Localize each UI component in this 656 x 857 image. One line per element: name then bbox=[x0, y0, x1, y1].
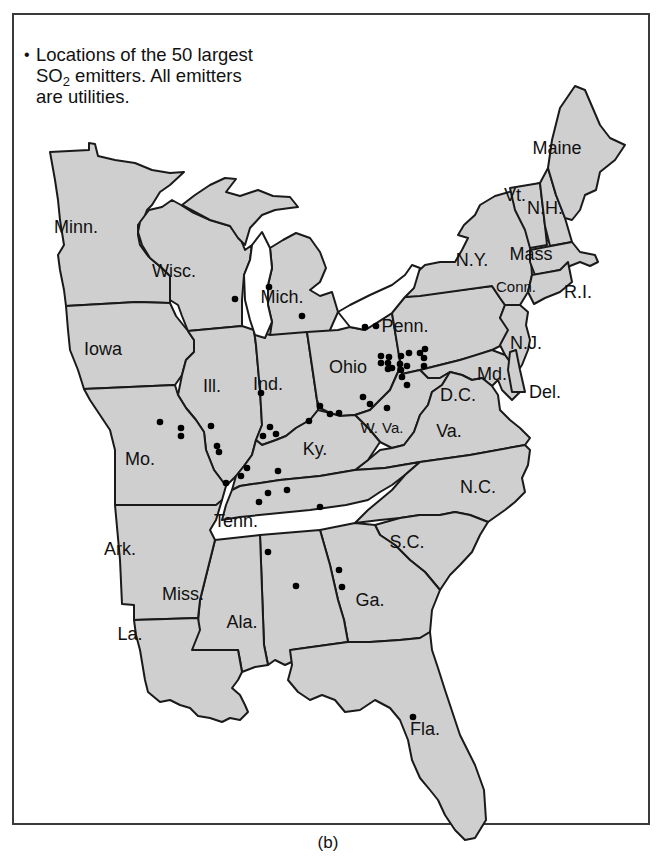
state-label: Vt. bbox=[504, 185, 526, 205]
emitter-dot bbox=[398, 353, 405, 360]
emitter-dot bbox=[293, 583, 300, 590]
emitter-dot bbox=[238, 473, 245, 480]
state-label: Mich. bbox=[260, 287, 303, 307]
map-legend: • Locations of the 50 largest SO2 emitte… bbox=[36, 44, 316, 107]
state-label: R.I. bbox=[564, 282, 592, 302]
emitter-dot bbox=[275, 468, 282, 475]
state-label: Mo. bbox=[125, 449, 155, 469]
state-label: Va. bbox=[436, 421, 462, 441]
emitter-dot bbox=[214, 443, 221, 450]
state-label: N.C. bbox=[460, 477, 496, 497]
state-label: W. Va. bbox=[360, 419, 403, 436]
state-label: Penn. bbox=[381, 316, 428, 336]
emitter-dot bbox=[244, 465, 251, 472]
state-label: Ark. bbox=[104, 539, 136, 559]
state-label: Ohio bbox=[329, 357, 367, 377]
emitter-dot bbox=[362, 324, 369, 331]
eastern-us-map: Minn.Wisc.Mich.IowaIll.Ind.OhioPenn.N.Y.… bbox=[0, 0, 656, 857]
emitter-dot bbox=[208, 423, 215, 430]
legend-line-3: are utilities. bbox=[36, 86, 316, 107]
bullet-icon: • bbox=[24, 44, 30, 65]
emitter-dot bbox=[398, 367, 405, 374]
emitter-dot bbox=[216, 449, 223, 456]
emitter-dot bbox=[384, 405, 391, 412]
state-label: Minn. bbox=[54, 217, 98, 237]
state-label: Wisc. bbox=[152, 261, 196, 281]
state-florida bbox=[288, 632, 486, 840]
state-label: Del. bbox=[529, 382, 561, 402]
emitter-dot bbox=[223, 480, 230, 487]
emitter-dot bbox=[397, 361, 404, 368]
state-label: Md. bbox=[477, 364, 507, 384]
emitter-dot bbox=[273, 431, 280, 438]
emitter-dot bbox=[299, 313, 306, 320]
emitter-dot bbox=[178, 433, 185, 440]
emitter-dot bbox=[422, 346, 429, 353]
state-label: Tenn. bbox=[214, 511, 258, 531]
state-label: Ala. bbox=[226, 612, 257, 632]
emitter-dot bbox=[336, 567, 343, 574]
emitter-dot bbox=[339, 584, 346, 591]
legend-so: SO bbox=[36, 65, 63, 86]
state-label: Iowa bbox=[84, 339, 123, 359]
emitter-dot bbox=[306, 418, 313, 425]
emitter-dot bbox=[232, 296, 239, 303]
emitter-dot bbox=[373, 323, 380, 330]
state-label: Ind. bbox=[253, 374, 283, 394]
emitter-dot bbox=[256, 499, 263, 506]
emitter-dot bbox=[399, 374, 406, 381]
state-label: N.J. bbox=[510, 333, 542, 353]
emitter-dot bbox=[421, 355, 428, 362]
emitter-dot bbox=[265, 549, 272, 556]
emitter-dot bbox=[360, 394, 367, 401]
emitter-dot bbox=[404, 363, 411, 370]
emitter-dot bbox=[317, 504, 324, 511]
emitter-dot bbox=[178, 425, 185, 432]
state-michigan-lp bbox=[268, 233, 338, 338]
emitter-dot bbox=[258, 390, 265, 397]
state-label: Maine bbox=[532, 138, 581, 158]
emitter-dot bbox=[378, 353, 385, 360]
state-label: N.H. bbox=[527, 198, 563, 218]
emitter-dot bbox=[406, 350, 413, 357]
emitter-dot bbox=[389, 365, 396, 372]
emitter-dot bbox=[410, 714, 417, 721]
emitter-dot bbox=[378, 360, 385, 367]
emitter-dot bbox=[266, 284, 273, 291]
emitter-dot bbox=[317, 403, 324, 410]
emitter-dot bbox=[327, 411, 334, 418]
emitter-dot bbox=[404, 382, 411, 389]
state-label: D.C. bbox=[440, 385, 476, 405]
emitter-dot bbox=[336, 410, 343, 417]
state-label: Miss. bbox=[162, 584, 204, 604]
emitter-dot bbox=[367, 401, 374, 408]
state-label: N.Y. bbox=[456, 250, 489, 270]
state-label: Ga. bbox=[355, 590, 384, 610]
emitter-dot bbox=[386, 354, 393, 361]
state-label: Ill. bbox=[203, 376, 221, 396]
state-label: La. bbox=[117, 624, 142, 644]
legend-emitters-text: emitters. All emitters bbox=[70, 65, 242, 86]
state-label: Ky. bbox=[303, 439, 328, 459]
state-label: Fla. bbox=[410, 719, 440, 739]
legend-line-1: Locations of the 50 largest bbox=[36, 44, 316, 65]
state-label: Conn. bbox=[496, 278, 536, 295]
figure-caption: (b) bbox=[0, 833, 656, 853]
legend-line-2: SO2 emitters. All emitters bbox=[36, 65, 316, 86]
emitter-dot bbox=[421, 363, 428, 370]
emitter-dot bbox=[284, 487, 291, 494]
emitter-dot bbox=[267, 424, 274, 431]
state-label: Mass bbox=[509, 244, 552, 264]
emitter-dot bbox=[157, 419, 164, 426]
emitter-dot bbox=[260, 433, 267, 440]
state-label: S.C. bbox=[389, 532, 424, 552]
emitter-dot bbox=[265, 490, 272, 497]
